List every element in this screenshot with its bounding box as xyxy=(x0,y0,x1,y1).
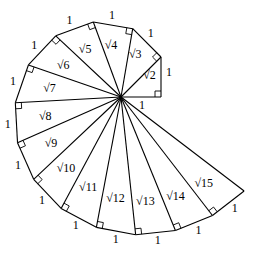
hypotenuse-label: √10 xyxy=(57,161,76,175)
hypotenuse-label: √6 xyxy=(57,58,70,72)
unit-label: 1 xyxy=(15,158,21,172)
hypotenuse-label: √5 xyxy=(79,42,92,56)
unit-label: 1 xyxy=(155,233,161,247)
unit-label: 1 xyxy=(166,65,172,79)
hypotenuse-label: √2 xyxy=(143,68,156,82)
unit-label: 1 xyxy=(139,98,145,112)
radius-segment xyxy=(93,22,121,97)
segment-labels: 111111111111111√2√3√4√5√6√7√8√9√10√11√12… xyxy=(5,8,238,247)
hypotenuse-label: √11 xyxy=(79,180,97,194)
right-angle-marker xyxy=(209,207,217,212)
hypotenuse-label: √14 xyxy=(166,189,185,203)
unit-label: 1 xyxy=(109,8,115,22)
unit-label: 1 xyxy=(73,218,79,232)
unit-label: 1 xyxy=(148,26,154,40)
unit-label: 1 xyxy=(39,193,45,207)
unit-label: 1 xyxy=(5,117,11,131)
hypotenuse-label: √4 xyxy=(105,38,118,52)
hypotenuse-label: √9 xyxy=(45,136,58,150)
right-angle-marker xyxy=(16,102,22,108)
hypotenuse-label: √12 xyxy=(106,191,125,205)
right-angle-marker xyxy=(38,175,42,183)
hypotenuse-label: √7 xyxy=(43,81,56,95)
radius-segment xyxy=(18,97,121,143)
unit-label: 1 xyxy=(66,13,72,27)
unit-label: 1 xyxy=(195,223,201,237)
hypotenuse-label: √13 xyxy=(136,194,155,208)
right-angle-marker xyxy=(52,40,60,44)
unit-label: 1 xyxy=(232,201,238,215)
spiral-of-theodorus-diagram: 111111111111111√2√3√4√5√6√7√8√9√10√11√12… xyxy=(0,0,267,265)
hypotenuse-label: √8 xyxy=(39,109,52,123)
unit-edge xyxy=(56,22,94,36)
radius-segment xyxy=(121,97,136,235)
unit-label: 1 xyxy=(113,232,119,246)
hypotenuse-label: √15 xyxy=(194,176,213,190)
hypotenuse-label: √3 xyxy=(129,47,142,61)
unit-edge xyxy=(15,65,28,103)
unit-label: 1 xyxy=(10,74,16,88)
radius-segment xyxy=(121,97,175,231)
unit-label: 1 xyxy=(31,38,37,52)
radius-segment xyxy=(15,97,121,103)
right-angle-marker xyxy=(155,91,161,97)
right-angle-marker xyxy=(153,53,157,61)
